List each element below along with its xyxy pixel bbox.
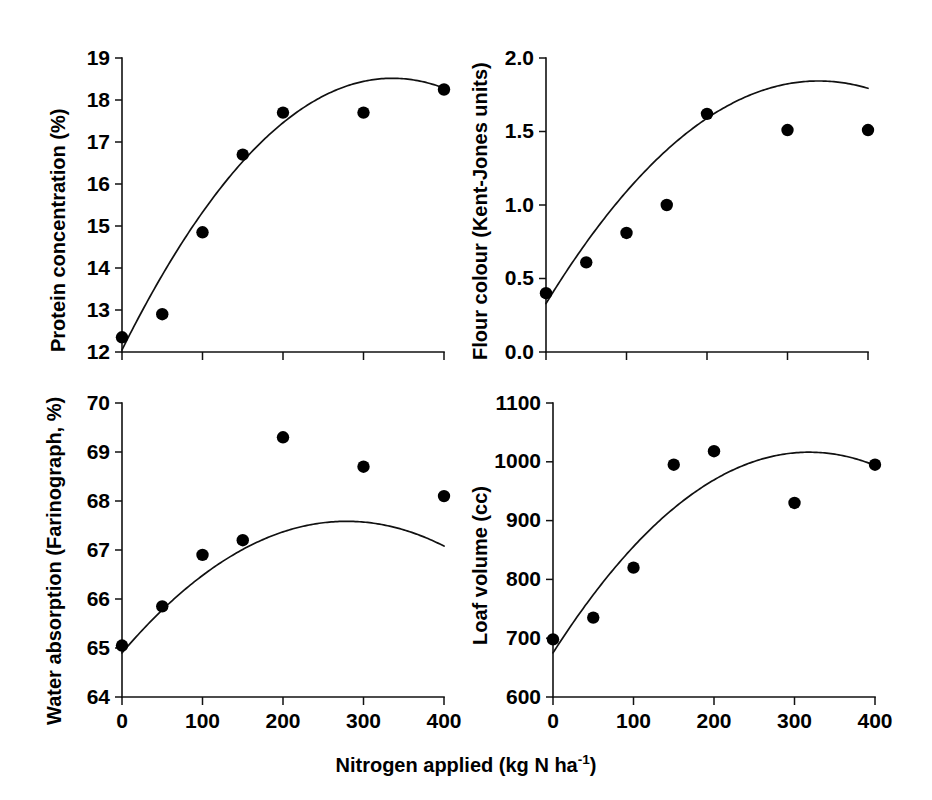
panel-protein-concentration: 1213141516171819Protein concentration (%… <box>0 0 466 400</box>
data-point <box>156 308 168 320</box>
y-tick-label: 67 <box>87 538 110 561</box>
data-point <box>237 534 249 546</box>
y-tick-label: 0.5 <box>505 266 535 289</box>
data-point <box>547 633 559 645</box>
fitted-curve <box>122 521 444 653</box>
data-point <box>620 227 632 239</box>
data-point <box>277 106 289 118</box>
x-tick-label: 0 <box>547 709 559 732</box>
y-axis-title: Water absorption (Farinograph, %) <box>44 397 64 725</box>
data-point <box>701 108 713 120</box>
panel-loaf-volume: 600700800900100011000100200300400Loaf vo… <box>430 345 932 765</box>
panel-water-absorption: 646566676869700100200300400Water absorpt… <box>0 345 466 765</box>
x-tick-label: 400 <box>857 709 892 732</box>
data-point <box>196 226 208 238</box>
data-point <box>156 600 168 612</box>
x-tick-label: 200 <box>696 709 731 732</box>
data-point <box>587 611 599 623</box>
data-point <box>788 497 800 509</box>
data-point <box>237 148 249 160</box>
y-tick-label: 64 <box>87 685 111 708</box>
data-point <box>277 431 289 443</box>
data-point <box>708 445 720 457</box>
y-tick-label: 600 <box>506 685 541 708</box>
y-tick-label: 14 <box>87 256 111 279</box>
y-tick-label: 16 <box>87 172 110 195</box>
data-point <box>580 256 592 268</box>
data-point <box>668 459 680 471</box>
y-axis-title: Protein concentration (%) <box>48 109 68 352</box>
data-point <box>862 124 874 136</box>
y-tick-label: 69 <box>87 440 110 463</box>
y-tick-label: 19 <box>87 46 110 69</box>
data-point <box>116 331 128 343</box>
y-tick-label: 800 <box>506 567 541 590</box>
data-point <box>357 106 369 118</box>
y-tick-label: 900 <box>506 508 541 531</box>
y-tick-label: 17 <box>87 130 110 153</box>
x-tick-label: 100 <box>616 709 651 732</box>
y-tick-label: 15 <box>87 214 111 237</box>
y-tick-label: 68 <box>87 489 111 512</box>
x-tick-label: 300 <box>777 709 812 732</box>
panel-flour-colour: 0.00.51.01.52.0Flour colour (Kent-Jones … <box>430 0 932 400</box>
fitted-curve <box>122 78 444 350</box>
x-tick-label: 200 <box>265 709 300 732</box>
plot-area-bottom-right: 600700800900100011000100200300400 <box>430 345 932 765</box>
x-tick-label: 100 <box>185 709 220 732</box>
x-axis-title-prefix: Nitrogen applied (kg N ha <box>335 754 577 776</box>
y-tick-label: 2.0 <box>505 46 534 69</box>
data-point <box>540 287 552 299</box>
y-tick-label: 13 <box>87 298 110 321</box>
x-axis-title-exponent: -1 <box>578 752 590 767</box>
y-tick-label: 1100 <box>495 391 541 414</box>
y-tick-label: 65 <box>87 636 111 659</box>
data-point <box>869 459 881 471</box>
y-tick-label: 1.5 <box>505 119 535 142</box>
x-tick-label: 0 <box>116 709 128 732</box>
data-point <box>196 549 208 561</box>
plot-area-bottom-left: 646566676869700100200300400 <box>0 345 466 765</box>
data-point <box>116 639 128 651</box>
y-tick-label: 66 <box>87 587 110 610</box>
y-tick-label: 1000 <box>494 449 541 472</box>
data-point <box>357 461 369 473</box>
x-axis-title: Nitrogen applied (kg N ha-1) <box>0 755 932 775</box>
y-tick-label: 70 <box>87 391 110 414</box>
y-tick-label: 700 <box>506 626 541 649</box>
x-tick-label: 300 <box>346 709 381 732</box>
fitted-curve <box>553 452 875 653</box>
y-axis-title: Flour colour (Kent-Jones units) <box>470 62 490 360</box>
figure-canvas: 1213141516171819Protein concentration (%… <box>0 0 932 800</box>
y-tick-label: 18 <box>87 88 111 111</box>
x-axis-title-suffix: ) <box>590 754 597 776</box>
y-axis-title: Loaf volume (cc) <box>470 486 490 645</box>
data-point <box>627 561 639 573</box>
data-point <box>781 124 793 136</box>
y-tick-label: 1.0 <box>505 193 534 216</box>
data-point <box>661 199 673 211</box>
